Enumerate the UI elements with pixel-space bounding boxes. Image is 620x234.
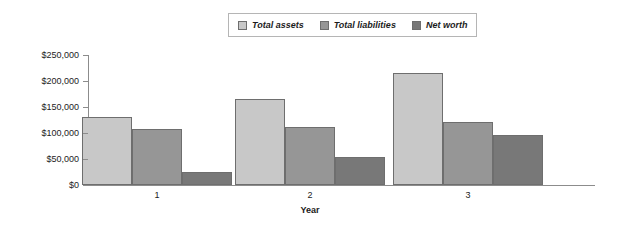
bar-total-assets-year-3[interactable] xyxy=(393,73,443,185)
bar-net-worth-year-3[interactable] xyxy=(493,135,543,185)
bar-total-assets-year-2[interactable] xyxy=(235,99,285,185)
y-axis-tick-label: $200,000 xyxy=(3,77,79,86)
y-axis-tick-label: $150,000 xyxy=(3,103,79,112)
y-axis-tick-label: $100,000 xyxy=(3,129,79,138)
bar-total-liabilities-year-1[interactable] xyxy=(132,129,182,185)
y-axis-tick-label: $50,000 xyxy=(3,155,79,164)
x-axis-category-label-1: 1 xyxy=(137,191,177,200)
bar-group-year-2 xyxy=(235,55,385,185)
x-axis-line xyxy=(88,185,595,186)
legend-entry-total-liabilities: Total liabilities xyxy=(320,21,396,30)
y-axis-tick-mark xyxy=(83,133,88,134)
y-axis-tick-label: $0 xyxy=(3,181,79,190)
x-axis-title: Year xyxy=(0,206,620,215)
y-axis-tick-label: $250,000 xyxy=(3,51,79,60)
bar-total-liabilities-year-3[interactable] xyxy=(443,122,493,185)
y-axis-tick-labels: $250,000$200,000$150,000$100,000$50,000$… xyxy=(0,0,79,234)
legend-entry-net-worth: Net worth xyxy=(412,21,468,30)
bar-group-year-1 xyxy=(82,55,232,185)
x-axis-category-label-3: 3 xyxy=(448,191,488,200)
y-axis-tick-mark xyxy=(83,185,88,186)
chart-legend: Total assets Total liabilities Net worth xyxy=(228,13,477,37)
y-axis-tick-mark xyxy=(83,81,88,82)
bar-total-assets-year-1[interactable] xyxy=(82,117,132,185)
legend-label-total-liabilities: Total liabilities xyxy=(334,21,396,30)
plot-area xyxy=(88,55,595,185)
legend-label-net-worth: Net worth xyxy=(426,21,468,30)
bar-net-worth-year-1[interactable] xyxy=(182,172,232,185)
legend-swatch-net-worth xyxy=(412,21,421,30)
bar-net-worth-year-2[interactable] xyxy=(335,157,385,185)
x-axis-category-label-2: 2 xyxy=(290,191,330,200)
bar-group-year-3 xyxy=(393,55,543,185)
legend-swatch-total-liabilities xyxy=(320,21,329,30)
bar-total-liabilities-year-2[interactable] xyxy=(285,127,335,185)
legend-label-total-assets: Total assets xyxy=(252,21,304,30)
y-axis-tick-mark xyxy=(83,159,88,160)
legend-swatch-total-assets xyxy=(238,21,247,30)
legend-entry-total-assets: Total assets xyxy=(238,21,304,30)
y-axis-tick-mark xyxy=(83,55,88,56)
bar-chart: Total assets Total liabilities Net worth… xyxy=(0,0,620,234)
y-axis-tick-mark xyxy=(83,107,88,108)
